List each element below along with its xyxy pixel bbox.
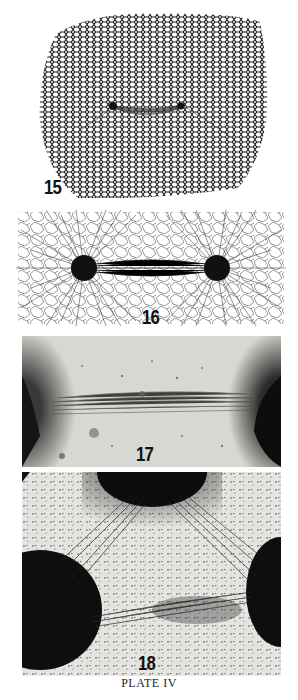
figure-18-photo: 18 [22,472,281,676]
mesh-illustration [38,12,268,198]
figure-16-radial-lines: 16 [16,210,286,326]
figure-number: 15 [44,176,61,197]
right-sphere [204,255,230,281]
figure-number: 16 [142,306,159,326]
figure-number: 17 [136,443,153,464]
figure-17-photo: 17 [22,336,281,467]
right-body [178,103,185,110]
left-sphere [71,255,97,281]
left-body [109,102,117,110]
figure-number: 18 [138,652,155,673]
photo-three-masses [22,472,281,676]
plate-caption: PLATE IV [0,676,298,691]
figure-15-mesh: 15 [38,12,268,198]
